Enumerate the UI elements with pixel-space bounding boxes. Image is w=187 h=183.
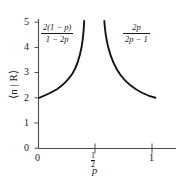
y-tick-label-1: 1 xyxy=(24,117,29,128)
y-tick-marks xyxy=(35,22,39,148)
x-axis-label: p xyxy=(92,166,97,177)
right-formula-denominator: 2p − 1 xyxy=(123,33,150,44)
y-axis-label: ⟨n | R⟩ xyxy=(7,63,20,107)
y-tick-label-2: 2 xyxy=(24,92,29,103)
y-tick-label-3: 3 xyxy=(24,66,29,77)
annotation-left-formula: 2(1 − p) 1 − 2p xyxy=(41,23,73,45)
x-tick-label-0: 0 xyxy=(35,152,40,163)
y-tick-label-0: 0 xyxy=(24,142,29,153)
half-numerator: 1 xyxy=(91,152,95,160)
right-formula-numerator: 2p xyxy=(123,23,150,33)
left-formula-denominator: 1 − 2p xyxy=(41,33,73,44)
left-formula-numerator: 2(1 − p) xyxy=(41,23,73,33)
x-tick-label-1: 1 xyxy=(149,152,154,163)
annotation-right-formula: 2p 2p − 1 xyxy=(123,23,150,45)
y-tick-label-4: 4 xyxy=(24,41,29,52)
y-tick-label-5: 5 xyxy=(24,16,29,27)
figure-canvas: 5 4 3 2 1 0 0 1 2 1 p ⟨n | R⟩ 2(1 − p) 1… xyxy=(0,0,187,183)
